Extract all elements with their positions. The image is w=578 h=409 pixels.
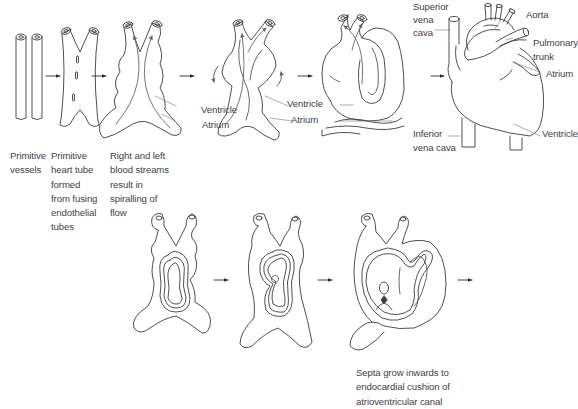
septation-stage-2-drawing [240, 213, 312, 347]
label-atrium-stage4: Atrium [291, 114, 318, 127]
label-superior-vena-cava-line3: cava [413, 27, 433, 40]
septation-stage-1-drawing [133, 214, 210, 334]
label-pulmonary-trunk-line1: Pulmonary [533, 37, 578, 50]
label-superior-vena-cava-line1: Superior [413, 1, 448, 14]
label-atrium-stage3: Atrium [202, 119, 229, 132]
caption-spiralling-flow: Right and left blood streams result in s… [110, 149, 169, 220]
primitive-vessels-drawing [16, 34, 42, 120]
label-pulmonary-trunk-line2: trunk [533, 51, 554, 64]
label-ventricle: Ventricle [542, 128, 578, 141]
mature-heart-drawing [435, 3, 544, 150]
label-atrium: Atrium [546, 68, 573, 81]
label-superior-vena-cava-line2: vena [413, 14, 433, 27]
caption-septa-grow: Septa grow inwards to endocardial cushio… [356, 366, 450, 409]
label-ventricle-stage3: Ventricle [201, 104, 237, 117]
caption-primitive-vessels: Primitive vessels [10, 149, 46, 178]
septation-stage-3-drawing [350, 213, 446, 350]
label-ventricle-stage4: Ventricle [287, 98, 323, 111]
caption-primitive-heart-tube: Primitive heart tube formed from fusing … [51, 149, 97, 235]
spiralling-flow-drawing [100, 20, 182, 138]
looped-heart-drawing [322, 13, 404, 136]
label-aorta: Aorta [526, 9, 548, 22]
label-inferior-vena-cava-line1: Inferior [413, 128, 442, 141]
label-inferior-vena-cava-line2: vena cava [413, 142, 456, 155]
